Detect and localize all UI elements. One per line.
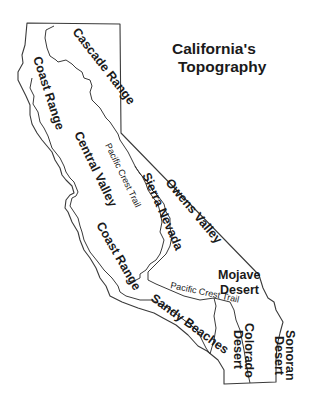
map-title-line2: Topography <box>178 58 267 75</box>
label-coast-range-north: Coast Range <box>30 55 67 132</box>
coast-range-boundary-south <box>84 240 210 354</box>
label-colorado-desert-line2: Desert <box>231 330 245 370</box>
label-mojave-desert-line1: Mojave <box>218 268 260 282</box>
california-topography-map: California's Topography Cascade Range Co… <box>0 0 310 407</box>
label-coast-range-south: Coast Range <box>93 220 143 293</box>
map-title-line1: California's <box>172 40 256 57</box>
label-cascade-range: Cascade Range <box>70 25 138 107</box>
label-sandy-beaches: Sandy Beaches <box>148 291 231 357</box>
label-sonoran-desert-line2: Desert <box>272 336 286 376</box>
